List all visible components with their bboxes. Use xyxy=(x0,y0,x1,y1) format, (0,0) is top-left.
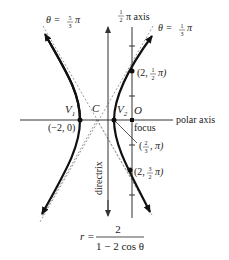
frac-den: 3 xyxy=(181,31,184,37)
frac-num: 1 xyxy=(181,23,184,29)
directrix-label: directrix xyxy=(93,161,104,195)
frac-num: 1 xyxy=(152,67,155,73)
frac-den: 2 xyxy=(152,75,155,81)
hyperbola-diagram: θ = 5 3 π θ = 1 3 π 1 2 π axis polar axi… xyxy=(0,0,229,260)
pi-symbol: π xyxy=(187,22,193,33)
origin-label: O xyxy=(134,104,142,116)
frac-den: 3 xyxy=(69,23,72,29)
pi-symbol: π xyxy=(75,14,81,25)
pi-text: π) xyxy=(155,166,164,178)
frac-den: 2 xyxy=(149,174,152,180)
point-v2 xyxy=(112,118,117,123)
frac-den: 3 xyxy=(145,148,148,154)
v1-coords-label: (−2, 0) xyxy=(48,122,75,134)
pi-text: π) xyxy=(158,67,167,79)
equation-denominator: 1 − 2 cos θ xyxy=(96,240,144,252)
frac-num: 3 xyxy=(149,166,152,172)
half-pi-axis-label: π axis xyxy=(126,11,150,22)
point-v1 xyxy=(78,118,83,123)
top-point-label: (2, xyxy=(137,67,148,79)
equation-numerator: 2 xyxy=(115,223,121,235)
focus-label: focus xyxy=(134,122,156,133)
frac-num: 2 xyxy=(145,140,148,146)
asymptote-left-label: θ = xyxy=(46,14,60,25)
pi-text: , π) xyxy=(150,140,164,152)
frac-den: 2 xyxy=(120,17,123,23)
point-bottom xyxy=(128,168,133,173)
asymptote-right-label: θ = xyxy=(158,22,172,33)
v1-label: V1 xyxy=(65,103,75,118)
mid-point-label: ( xyxy=(139,140,143,152)
equation-lhs: r = xyxy=(80,230,94,242)
frac-num: 5 xyxy=(69,15,72,21)
point-top xyxy=(130,69,135,74)
bottom-point-label: (2, xyxy=(134,166,145,178)
v2-label: V2 xyxy=(117,103,128,118)
polar-axis-label: polar axis xyxy=(176,114,215,125)
center-label: C xyxy=(92,102,100,114)
frac-num: 1 xyxy=(120,9,123,15)
